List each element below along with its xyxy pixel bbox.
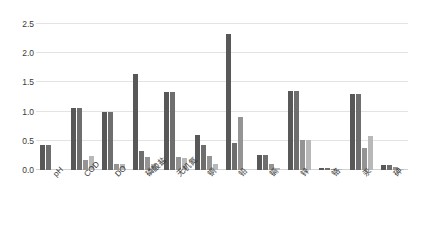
bar-chart: 0.00.51.01.52.02.5 pHCODDO磷酸盐无机氮铜铅镉锌铬汞砷 [0,0,424,226]
bar [201,145,206,170]
x-axis-label-cell: 锌 [284,171,315,226]
y-axis-tick-label: 0.0 [0,166,34,175]
x-axis-label-cell: 铅 [222,171,253,226]
bar [46,145,51,170]
bar-group [377,24,408,170]
bar [368,136,373,170]
bar-group [253,24,284,170]
bar-groups [36,24,408,170]
bar-group [284,24,315,170]
bar [102,112,107,170]
bar [71,108,76,170]
y-axis-tick-label: 1.5 [0,78,34,87]
plot-area [36,24,408,170]
bar [387,165,392,170]
bar [306,140,311,170]
y-axis-tick-label: 0.5 [0,137,34,146]
x-axis-label-cell: 磷酸盐 [129,171,160,226]
bar [195,135,200,170]
x-axis-label-cell: 铬 [315,171,346,226]
bar-group [315,24,346,170]
bar-group [160,24,191,170]
bar [238,117,243,170]
x-axis-labels: pHCODDO磷酸盐无机氮铜铅镉锌铬汞砷 [36,171,408,226]
bar-group [222,24,253,170]
bar [232,143,237,170]
bar [77,108,82,170]
bar-group [98,24,129,170]
y-axis-tick-label: 2.5 [0,20,34,29]
bar [325,168,330,170]
bar [108,112,113,170]
bar-group [36,24,67,170]
bar [226,34,231,170]
y-axis-tick-label: 1.0 [0,107,34,116]
bar [257,155,262,170]
bar [40,145,45,170]
y-axis-tick-label: 2.0 [0,49,34,58]
x-axis-label-cell: 镉 [253,171,284,226]
bar-group [129,24,160,170]
bar [263,155,268,170]
bar-group [191,24,222,170]
bar [319,168,324,170]
bar [356,94,361,171]
x-axis-label-cell: 无机氮 [160,171,191,226]
bar [133,74,138,170]
x-axis-label-cell: DO [98,171,129,226]
bar-group [346,24,377,170]
bar [350,94,355,171]
bar [139,151,144,170]
x-axis-label-cell: 砷 [377,171,408,226]
bar [294,91,299,170]
x-axis-label-cell: COD [67,171,98,226]
bar [288,91,293,170]
x-axis-label-cell: pH [36,171,67,226]
x-axis-label-cell: 汞 [346,171,377,226]
bar-group [67,24,98,170]
bar [381,165,386,170]
x-axis-label-cell: 铜 [191,171,222,226]
bar [170,92,175,170]
